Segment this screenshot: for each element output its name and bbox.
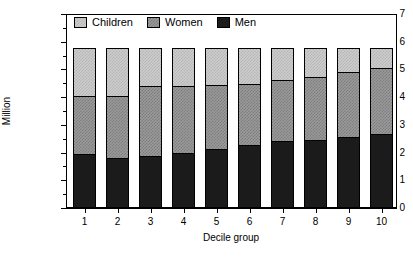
bar-stack[interactable] (304, 14, 327, 208)
y-axis-label: 3 (399, 120, 405, 130)
legend-label: Women (165, 17, 203, 28)
x-axis-tick (85, 208, 86, 213)
x-axis-label: 7 (280, 217, 286, 227)
bar-segment-men[interactable] (139, 156, 162, 208)
bar-segment-women[interactable] (139, 86, 162, 157)
x-axis-label: 6 (247, 217, 253, 227)
bar-segment-women[interactable] (106, 96, 129, 159)
y-axis-label: 2 (399, 148, 405, 158)
legend-item-children[interactable]: Children (74, 17, 133, 28)
stacked-bar-chart: Million Decile group ChildrenWomenMen 01… (0, 0, 413, 257)
bar-stack[interactable] (205, 14, 228, 208)
bar-segment-women[interactable] (172, 86, 195, 154)
x-axis-tick (382, 208, 383, 213)
bar-segment-men[interactable] (304, 140, 327, 208)
bar-segment-men[interactable] (238, 145, 261, 208)
bar-segment-women[interactable] (271, 80, 294, 142)
bar-segment-children[interactable] (73, 48, 96, 98)
x-axis (66, 208, 397, 209)
men-swatch (217, 17, 230, 28)
bar-stack[interactable] (238, 14, 261, 208)
bar-segment-men[interactable] (370, 134, 393, 208)
bar-segment-women[interactable] (73, 96, 96, 155)
bar-segment-men[interactable] (73, 154, 96, 208)
bar-segment-men[interactable] (172, 153, 195, 208)
bar-segment-children[interactable] (139, 48, 162, 88)
legend-label: Men (235, 17, 256, 28)
bar-segment-women[interactable] (304, 77, 327, 141)
y-axis-title: Million (1, 97, 12, 125)
bar-segment-children[interactable] (370, 48, 393, 70)
x-axis-tick (118, 208, 119, 213)
bar-stack[interactable] (106, 14, 129, 208)
women-swatch (147, 17, 160, 28)
x-axis-label: 5 (214, 217, 220, 227)
x-axis-tick (316, 208, 317, 213)
children-swatch (74, 17, 87, 28)
x-axis-label: 9 (346, 217, 352, 227)
x-axis-tick (250, 208, 251, 213)
bar-segment-women[interactable] (337, 72, 360, 138)
bar-stack[interactable] (139, 14, 162, 208)
x-axis-tick (217, 208, 218, 213)
bar-stack[interactable] (337, 14, 360, 208)
y-axis-label: 6 (399, 37, 405, 47)
bar-segment-men[interactable] (337, 137, 360, 208)
bar-stack[interactable] (271, 14, 294, 208)
y-axis-label: 1 (399, 175, 405, 185)
bar-segment-children[interactable] (106, 48, 129, 98)
bar-segment-children[interactable] (238, 48, 261, 85)
x-axis-tick (349, 208, 350, 213)
bar-stack[interactable] (370, 14, 393, 208)
x-axis-label: 10 (376, 217, 387, 227)
x-axis-tick (151, 208, 152, 213)
bar-stack[interactable] (172, 14, 195, 208)
legend-label: Children (92, 17, 133, 28)
bar-stack[interactable] (73, 14, 96, 208)
y-axis-label: 7 (399, 9, 405, 19)
x-axis-tick (184, 208, 185, 213)
y-axis-label: 5 (399, 64, 405, 74)
x-axis-label: 8 (313, 217, 319, 227)
bar-segment-children[interactable] (205, 48, 228, 87)
legend-item-men[interactable]: Men (217, 17, 256, 28)
bar-segment-children[interactable] (271, 48, 294, 81)
bar-segment-children[interactable] (172, 48, 195, 87)
x-axis-label: 4 (181, 217, 187, 227)
x-axis-label: 1 (82, 217, 88, 227)
bar-segment-men[interactable] (205, 149, 228, 208)
bar-segment-men[interactable] (271, 141, 294, 208)
y-axis-label: 4 (399, 92, 405, 102)
bar-segment-children[interactable] (337, 48, 360, 73)
x-axis-title: Decile group (203, 232, 259, 243)
x-axis-tick (283, 208, 284, 213)
bar-segment-women[interactable] (205, 85, 228, 150)
bars-layer (66, 14, 397, 208)
bar-segment-women[interactable] (238, 84, 261, 146)
bar-segment-women[interactable] (370, 68, 393, 134)
bar-segment-children[interactable] (304, 48, 327, 78)
chart-legend: ChildrenWomenMen (74, 17, 256, 28)
y-axis-label: 0 (399, 203, 405, 213)
legend-item-women[interactable]: Women (147, 17, 203, 28)
x-axis-label: 3 (148, 217, 154, 227)
x-axis-label: 2 (115, 217, 121, 227)
bar-segment-men[interactable] (106, 158, 129, 208)
